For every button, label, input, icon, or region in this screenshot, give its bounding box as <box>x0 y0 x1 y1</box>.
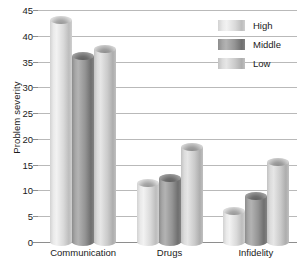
y-tick-label-45: 45 <box>22 5 33 16</box>
legend-label-middle: Middle <box>253 39 281 50</box>
bar-communication-high <box>50 16 72 242</box>
bar-drugs-low <box>181 143 203 242</box>
y-tick-label-30: 30 <box>22 82 33 93</box>
y-tick-label-25: 25 <box>22 108 33 119</box>
legend-label-high: High <box>253 20 273 31</box>
chart-legend: HighMiddleLow <box>218 16 302 73</box>
y-tick-mark-0 <box>33 242 38 243</box>
bar-body <box>181 147 203 242</box>
bar-drugs-middle <box>159 174 181 242</box>
y-tick-label-5: 5 <box>28 211 33 222</box>
y-tick-label-0: 0 <box>28 237 33 248</box>
legend-swatch-high <box>218 20 245 31</box>
bar-infidelity-low <box>267 158 289 242</box>
legend-swatch-low <box>218 58 245 69</box>
x-axis-label-drugs: Drugs <box>157 247 182 258</box>
bar-top-ellipse <box>159 174 181 182</box>
bar-top-ellipse <box>181 143 203 151</box>
bar-drugs-high <box>137 179 159 242</box>
y-tick-label-10: 10 <box>22 185 33 196</box>
x-axis-label-infidelity: Infidelity <box>238 247 273 258</box>
x-axis-label-communication: Communication <box>50 247 116 258</box>
bar-communication-middle <box>72 52 94 242</box>
legend-item-low[interactable]: Low <box>218 54 302 73</box>
bar-communication-low <box>94 45 116 242</box>
bar-top-ellipse <box>267 158 289 166</box>
bar-chart: Problem severity 051015202530354045 Comm… <box>0 0 305 265</box>
bar-body <box>159 178 181 242</box>
y-axis-title: Problem severity <box>11 58 22 178</box>
bar-top-ellipse <box>245 192 267 200</box>
y-tick-label-35: 35 <box>22 56 33 67</box>
bar-body <box>245 196 267 242</box>
bar-top-ellipse <box>94 45 116 53</box>
bar-body <box>137 183 159 242</box>
bar-body <box>223 211 245 242</box>
legend-swatch-middle <box>218 39 245 50</box>
legend-item-high[interactable]: High <box>218 16 302 35</box>
bar-body <box>50 20 72 242</box>
bar-body <box>72 56 94 242</box>
y-tick-label-40: 40 <box>22 30 33 41</box>
legend-label-low: Low <box>253 58 270 69</box>
bar-body <box>267 162 289 242</box>
y-tick-label-20: 20 <box>22 133 33 144</box>
bar-infidelity-middle <box>245 192 267 242</box>
bar-body <box>94 49 116 242</box>
y-tick-label-15: 15 <box>22 159 33 170</box>
bar-infidelity-high <box>223 207 245 242</box>
legend-item-middle[interactable]: Middle <box>218 35 302 54</box>
bar-top-ellipse <box>137 179 159 187</box>
bar-top-ellipse <box>223 207 245 215</box>
